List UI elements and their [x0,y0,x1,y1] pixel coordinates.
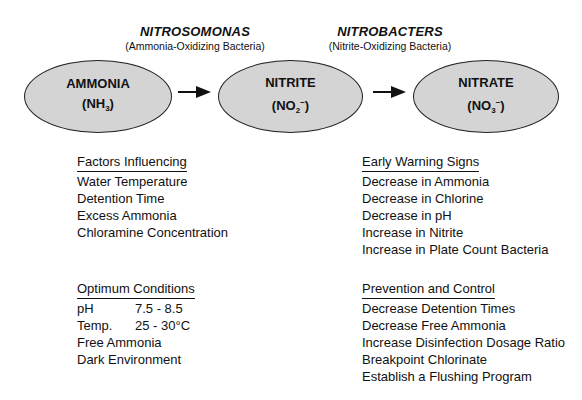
optimum-conditions-list: Optimum Conditions pH 7.5 - 8.5 Temp. 25… [77,280,195,368]
prevention-control-list: Prevention and Control Decrease Detentio… [362,280,565,385]
ammonia-formula: (NH3) [82,94,114,119]
list-item: Establish a Flushing Program [362,368,565,385]
nitrosomonas-label: NITROSOMONAS [85,24,305,39]
temp-value: 25 - 30°C [135,317,190,334]
list-item: Breakpoint Chlorinate [362,351,565,368]
list-item: Detention Time [77,190,228,207]
list-item: Decrease in pH [362,207,548,224]
prevention-heading: Prevention and Control [362,280,495,299]
list-item: Chloramine Concentration [77,224,228,241]
list-item: Excess Ammonia [77,207,228,224]
list-item: Decrease Free Ammonia [362,317,565,334]
list-item: Decrease in Chlorine [362,190,548,207]
list-item: Increase Disinfection Dosage Ratio [362,334,565,351]
ammonia-node: AMMONIA (NH3) [24,60,172,133]
right-arrow-icon [178,85,212,99]
nitrite-node: NITRITE (NO2−) [218,60,363,133]
right-arrow-icon [373,85,407,99]
nitrate-node: NITRATE (NO3−) [413,60,559,133]
nitrite-name: NITRITE [265,73,316,93]
list-item: Decrease in Ammonia [362,173,548,190]
ph-label: pH [77,300,135,317]
factors-influencing-list: Factors Influencing Water Temperature De… [77,153,228,241]
nitrobacters-label: NITROBACTERS [280,24,500,39]
list-item: Increase in Plate Count Bacteria [362,241,548,258]
ph-value: 7.5 - 8.5 [135,300,183,317]
list-item: Decrease Detention Times [362,300,565,317]
nitrate-name: NITRATE [458,73,513,93]
early-warning-list: Early Warning Signs Decrease in Ammonia … [362,153,548,258]
warning-heading: Early Warning Signs [362,153,479,172]
nitrite-formula: (NO2−) [272,93,309,121]
ammonia-name: AMMONIA [66,74,130,94]
temp-row: Temp. 25 - 30°C [77,317,195,334]
nitrate-formula: (NO3−) [467,93,504,121]
list-item: Free Ammonia [77,334,195,351]
ph-row: pH 7.5 - 8.5 [77,300,195,317]
list-item: Water Temperature [77,173,228,190]
list-item: Increase in Nitrite [362,224,548,241]
optimum-heading: Optimum Conditions [77,280,195,299]
nitrosomonas-description: (Ammonia-Oxidizing Bacteria) [85,40,305,52]
nitrobacters-description: (Nitrite-Oxidizing Bacteria) [280,40,500,52]
list-item: Dark Environment [77,351,195,368]
factors-heading: Factors Influencing [77,153,187,172]
temp-label: Temp. [77,317,135,334]
